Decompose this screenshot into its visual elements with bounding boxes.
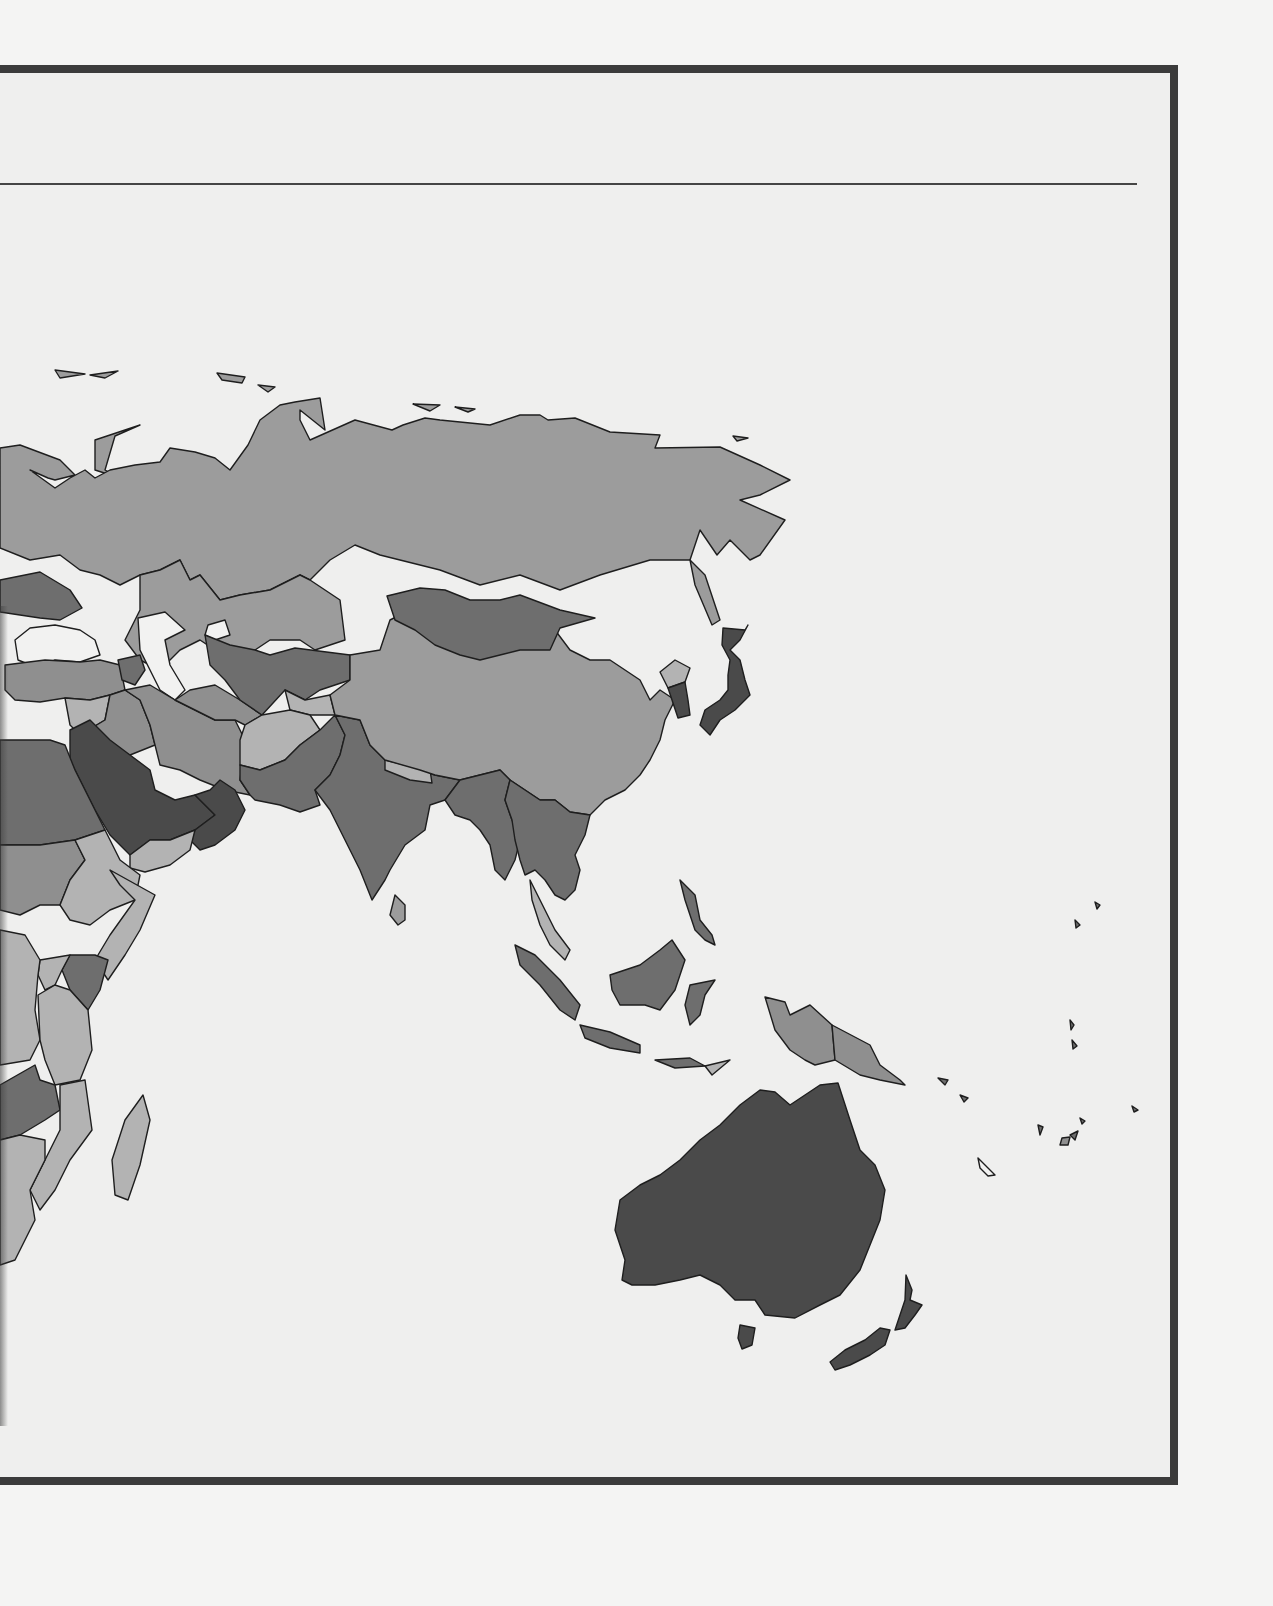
region-philippines [680, 880, 715, 945]
region-java [580, 1025, 640, 1053]
pacific-islets [938, 902, 1138, 1176]
region-russia [0, 398, 790, 600]
region-severnaya [217, 373, 245, 383]
region-severnaya-2 [258, 385, 275, 392]
region-sulawesi [685, 980, 715, 1025]
region-tasmania [738, 1325, 755, 1349]
region-wrangel [733, 436, 748, 441]
caption-divider [0, 183, 1137, 185]
region-islet [1132, 1106, 1138, 1112]
region-sakhalin [690, 560, 720, 625]
region-ukraine [0, 572, 82, 620]
scanned-page [0, 0, 1273, 1606]
region-png [832, 1025, 905, 1085]
region-islet [1075, 920, 1080, 928]
region-new-caledonia [978, 1158, 995, 1176]
region-madagascar [112, 1095, 150, 1200]
region-islet [1070, 1131, 1078, 1140]
map-caption [0, 75, 1137, 180]
region-nz-south [830, 1328, 890, 1370]
region-islet [960, 1095, 968, 1102]
region-nz-north [895, 1275, 922, 1330]
region-islet [1095, 902, 1100, 909]
page-gutter-shadow [0, 606, 8, 1426]
region-borneo [610, 940, 685, 1010]
region-islet [1070, 1020, 1074, 1030]
region-new-guinea-west [765, 997, 835, 1065]
region-lesser-sunda [655, 1058, 705, 1068]
region-caucasus [118, 655, 145, 685]
region-new-siberian-2 [455, 407, 475, 412]
region-timor [705, 1060, 730, 1075]
region-fiji [1060, 1137, 1070, 1145]
region-islet [1072, 1040, 1077, 1049]
region-franz-josef [55, 370, 85, 378]
choropleth-map [0, 186, 1162, 1469]
region-new-siberian [413, 404, 440, 411]
region-vanuatu [1038, 1125, 1043, 1135]
region-japan [700, 625, 750, 735]
region-south-korea [668, 682, 690, 718]
region-islet [938, 1078, 948, 1085]
region-sri-lanka [390, 895, 405, 925]
region-australia [615, 1083, 885, 1318]
region-franz-josef-2 [90, 371, 118, 378]
region-islet [1080, 1118, 1085, 1124]
region-sumatra [515, 945, 580, 1020]
